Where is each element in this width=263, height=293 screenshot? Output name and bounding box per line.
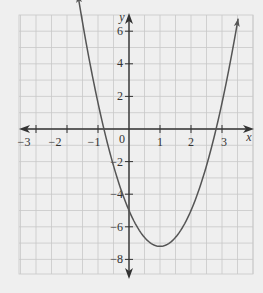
x-tick-label: −1: [88, 135, 101, 149]
x-tick-label: 2: [188, 135, 194, 149]
x-tick-label: −3: [18, 135, 31, 149]
y-tick-label: 4: [117, 56, 123, 70]
curve-arrows: [76, 0, 240, 27]
y-axis-title: y: [118, 10, 125, 24]
graph-canvas: −3 −2 −1 0 1 2 3 x 6 4 2 −2 −4 −6 −8 y: [0, 0, 263, 293]
x-tick-label: 1: [157, 135, 163, 149]
y-tick-label: 2: [117, 89, 123, 103]
y-tick-label: 6: [117, 24, 123, 38]
y-tick-label: −8: [110, 252, 123, 266]
x-tick-label: 3: [221, 135, 227, 149]
parabola-curve: [78, 0, 238, 246]
x-axis: [19, 125, 254, 133]
y-tick-label: −6: [110, 220, 123, 234]
origin-label: 0: [119, 132, 125, 146]
x-tick-label: −2: [49, 135, 62, 149]
y-axis: [125, 13, 133, 279]
x-axis-title: x: [245, 130, 252, 144]
